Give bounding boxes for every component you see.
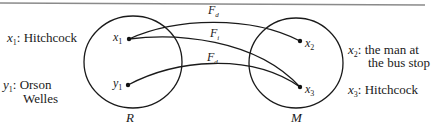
set-r-label: R — [126, 110, 134, 125]
legend-x2-line2: the bus stop — [368, 55, 430, 70]
arrow-label-x1-x2: Fd — [208, 3, 219, 19]
point-x2-dot — [298, 39, 302, 43]
set-r-circle — [84, 16, 182, 108]
legend-x1: x1: Hitchcock — [7, 30, 77, 50]
arrow-y1-x3 — [128, 63, 300, 87]
legend-x3: x3: Hitchcock — [348, 82, 418, 102]
point-x1-dot — [127, 37, 131, 41]
point-x3-label: x3 — [305, 82, 314, 101]
point-y1-dot — [126, 83, 130, 87]
point-x3-dot — [298, 85, 302, 89]
legend-y1-line2: Welles — [23, 91, 58, 106]
point-x2-label: x2 — [305, 36, 314, 55]
point-x1-label: x1 — [113, 30, 122, 49]
set-m-label: M — [291, 110, 302, 125]
point-y1-label: y1 — [113, 76, 122, 95]
arrow-label-x1-x3: Fi — [210, 26, 219, 42]
arrow-label-y1-x3: Fd — [207, 50, 218, 66]
set-m-circle — [249, 18, 343, 108]
